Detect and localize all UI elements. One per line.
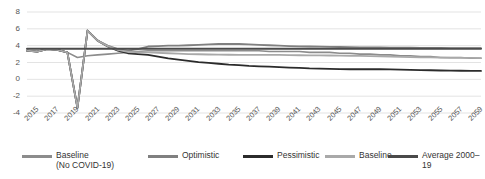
legend-item[interactable]: Average 2000–19 [388,151,485,170]
legend-swatch-icon [325,155,355,158]
chart-canvas [0,0,485,145]
chart-legend: Baseline (No COVID-19)OptimisticPessimis… [0,147,485,179]
legend-label: Average 2000–19 [422,151,485,170]
y-tick-label: 4 [4,42,20,50]
y-tick-label: 2 [4,59,20,67]
legend-swatch-icon [243,155,273,158]
line-chart: 86420-2-4 201520172019202120232025202720… [0,0,485,179]
legend-label: Baseline (No COVID-19) [56,151,114,170]
legend-item[interactable]: Baseline (No COVID-19) [22,151,114,170]
legend-item[interactable]: Baseline [325,151,392,161]
legend-label: Pessimistic [277,151,320,161]
legend-label: Optimistic [182,151,219,161]
plot-area [0,0,485,145]
y-tick-label: 0 [4,75,20,83]
y-tick-label: -4 [4,109,20,117]
legend-swatch-icon [22,155,52,158]
legend-label: Baseline [359,151,392,161]
y-tick-label: -2 [4,92,20,100]
y-tick-label: 8 [4,8,20,16]
y-tick-label: 6 [4,25,20,33]
legend-item[interactable]: Pessimistic [243,151,320,161]
legend-swatch-icon [148,155,178,158]
legend-item[interactable]: Optimistic [148,151,219,161]
legend-swatch-icon [388,155,418,158]
